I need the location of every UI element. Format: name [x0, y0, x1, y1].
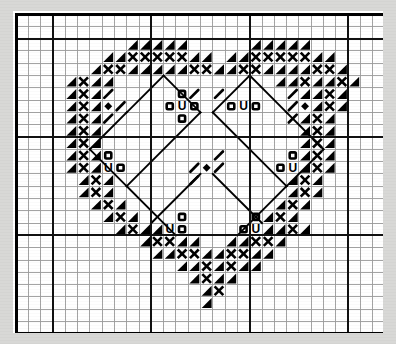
letter-u-icon: U	[251, 222, 260, 236]
cross-stitch-chart[interactable]: UUUUUU	[13, 11, 383, 333]
chart-canvas[interactable]: UUUUUU	[13, 11, 383, 333]
svg-text:U: U	[251, 222, 260, 236]
letter-u-icon: U	[288, 161, 297, 175]
letter-u-icon: U	[178, 99, 187, 113]
pattern-chart-stage: UUUUUU Heart Pattern Chart	[0, 0, 396, 344]
svg-text:U: U	[288, 161, 297, 175]
letter-u-icon: U	[239, 99, 248, 113]
svg-text:U: U	[239, 99, 248, 113]
svg-text:U: U	[178, 99, 187, 113]
